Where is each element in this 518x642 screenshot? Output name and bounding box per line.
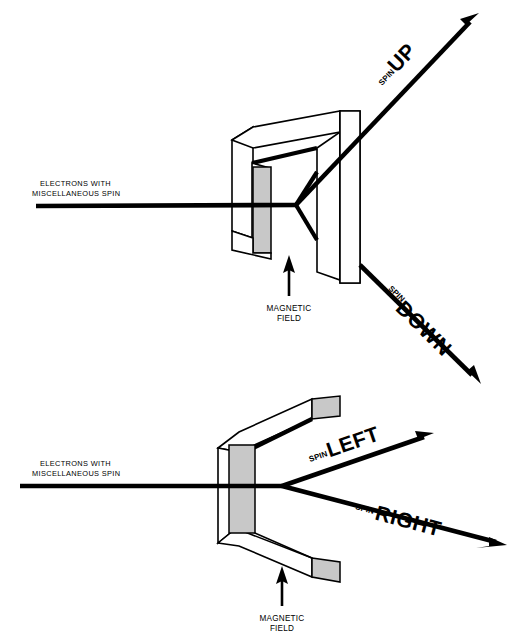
lower-magnet-pole-gap-column bbox=[229, 445, 255, 533]
upper-magnet-fold-lower bbox=[296, 205, 317, 240]
spin-down-direction: DOWN bbox=[392, 296, 457, 360]
lower-panel: ELECTRONS WITH MISCELLANEOUS SPIN MAGNET… bbox=[20, 396, 507, 633]
upper-magnet-inner-edge bbox=[252, 148, 317, 163]
lower-beam-label-line1: ELECTRONS WITH bbox=[40, 459, 111, 468]
upper-magnet bbox=[232, 111, 360, 283]
lower-beam-label-line2: MISCELLANEOUS SPIN bbox=[32, 469, 120, 478]
spin-separation-figure: ELECTRONS WITH MISCELLANEOUS SPIN MAGNET… bbox=[0, 0, 518, 642]
lower-field-label-line2: FIELD bbox=[270, 624, 294, 633]
upper-magnet-pole-face-left bbox=[253, 167, 271, 253]
spin-right-direction: RIGHT bbox=[373, 501, 444, 541]
spin-right-label-group: SPIN RIGHT bbox=[353, 495, 444, 540]
upper-field-label-line1: MAGNETIC bbox=[267, 304, 312, 313]
figure-canvas: ELECTRONS WITH MISCELLANEOUS SPIN MAGNET… bbox=[0, 0, 518, 642]
spin-left-label-group: SPIN LEFT bbox=[304, 422, 382, 468]
upper-beam-label-line1: ELECTRONS WITH bbox=[40, 179, 111, 188]
spin-right-prefix: SPIN bbox=[354, 502, 375, 516]
upper-beam-label-line2: MISCELLANEOUS SPIN bbox=[32, 189, 120, 198]
spin-up-arrowhead bbox=[455, 13, 479, 35]
lower-magnet-pole-face-lower bbox=[312, 558, 340, 582]
upper-incoming-beam bbox=[36, 205, 296, 206]
spin-left-prefix: SPIN bbox=[308, 449, 329, 464]
spin-down-arrowhead bbox=[457, 361, 481, 384]
lower-magnet-pole-face-upper bbox=[312, 396, 340, 419]
upper-panel: ELECTRONS WITH MISCELLANEOUS SPIN MAGNET… bbox=[32, 13, 481, 384]
lower-field-label-line1: MAGNETIC bbox=[260, 614, 305, 623]
upper-magnet-right-leg bbox=[317, 132, 340, 280]
upper-field-label-line2: FIELD bbox=[277, 314, 301, 323]
lower-magnet bbox=[218, 396, 340, 582]
upper-magnet-right-outer-contour bbox=[340, 111, 360, 283]
